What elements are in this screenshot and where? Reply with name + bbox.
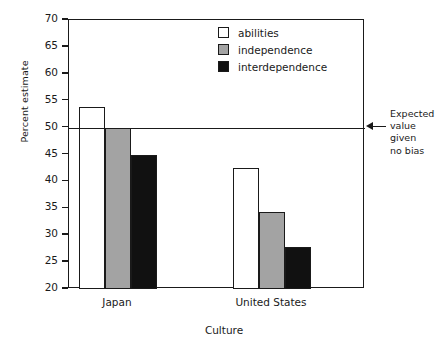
- bar: [105, 128, 131, 289]
- legend-item: interdependence: [218, 58, 327, 75]
- reference-line: [69, 128, 365, 130]
- y-tick-label: 40: [28, 173, 58, 185]
- y-tick-label: 70: [28, 12, 58, 24]
- bar-chart: Percent estimate 2025303540455055606570 …: [0, 0, 448, 360]
- legend-swatch: [218, 27, 229, 38]
- legend-label: abilities: [238, 27, 279, 39]
- y-tick-label: 50: [28, 120, 58, 132]
- legend-label: interdependence: [238, 61, 327, 73]
- y-tick-label: 65: [28, 39, 58, 51]
- annotation-line: given: [390, 132, 434, 144]
- annotation-line: Expected: [390, 108, 434, 120]
- y-tick-label: 30: [28, 227, 58, 239]
- legend-swatch: [218, 44, 229, 55]
- legend-swatch: [218, 61, 229, 72]
- bar: [233, 168, 259, 289]
- bar: [79, 107, 105, 289]
- y-tick-label: 60: [28, 66, 58, 78]
- legend-label: independence: [238, 44, 313, 56]
- y-tick-label: 35: [28, 200, 58, 212]
- x-axis-label: Culture: [0, 324, 448, 336]
- x-tick-label: United States: [201, 296, 341, 308]
- y-tick-label: 20: [28, 281, 58, 293]
- bar: [259, 212, 285, 289]
- y-tick-label: 55: [28, 93, 58, 105]
- legend-item: independence: [218, 41, 327, 58]
- bar: [131, 155, 157, 290]
- x-tick-label: Japan: [47, 296, 187, 308]
- legend-item: abilities: [218, 24, 327, 41]
- arrow-tail: [372, 126, 386, 128]
- annotation-line: value: [390, 120, 434, 132]
- expected-value-annotation: Expectedvaluegivenno bias: [390, 108, 434, 158]
- y-tick-label: 45: [28, 147, 58, 159]
- legend: abilitiesindependenceinterdependence: [218, 24, 327, 75]
- annotation-line: no bias: [390, 145, 434, 157]
- bar: [285, 247, 311, 289]
- y-tick-label: 25: [28, 254, 58, 266]
